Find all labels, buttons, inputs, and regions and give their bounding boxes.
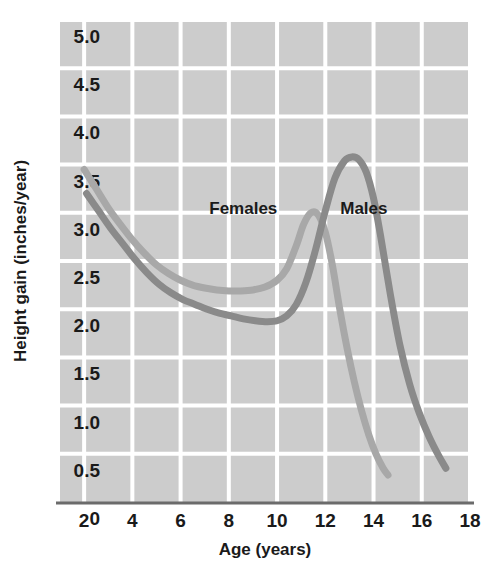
x-tick-label: 18 <box>459 510 480 531</box>
x-axis-tick-labels: 24681012141618 <box>79 510 481 531</box>
x-axis-title: Age (years) <box>219 540 312 559</box>
chart-figure: 5.04.54.03.53.02.52.01.51.00.50 FemalesM… <box>0 0 490 585</box>
x-tick-label: 6 <box>175 510 186 531</box>
x-tick-label: 10 <box>266 510 287 531</box>
y-tick-label: 1.5 <box>74 363 101 384</box>
x-tick-label: 16 <box>411 510 432 531</box>
y-tick-label: 2.0 <box>74 315 100 336</box>
x-tick-label: 4 <box>127 510 138 531</box>
series-label-females: Females <box>209 199 277 218</box>
series-label-males: Males <box>340 199 387 218</box>
y-tick-label: 3.0 <box>74 219 100 240</box>
y-tick-label: 4.5 <box>74 74 101 95</box>
y-tick-label: 2.5 <box>74 267 101 288</box>
y-tick-label: 0 <box>89 508 100 529</box>
x-tick-label: 2 <box>79 510 90 531</box>
x-tick-label: 12 <box>315 510 336 531</box>
x-tick-label: 14 <box>363 510 385 531</box>
y-axis-title: Height gain (inches/year) <box>11 160 30 362</box>
y-tick-label: 5.0 <box>74 26 100 47</box>
y-tick-label: 4.0 <box>74 122 100 143</box>
y-tick-label: 1.0 <box>74 412 100 433</box>
x-tick-label: 8 <box>224 510 235 531</box>
height-gain-line-chart: 5.04.54.03.53.02.52.01.51.00.50 FemalesM… <box>0 0 490 585</box>
y-tick-label: 0.5 <box>74 460 101 481</box>
